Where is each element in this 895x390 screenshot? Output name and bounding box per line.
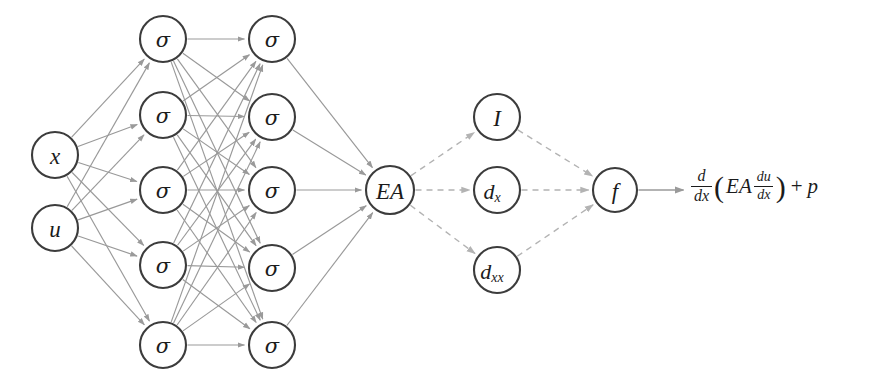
edge-der-i-to-res-f (518, 130, 593, 176)
edge-in-u-to-h1-5 (72, 246, 145, 325)
outer-frac-numerator: d (695, 168, 709, 186)
node-h1-1: σ (140, 16, 186, 62)
nodes-group: xuσσσσσσσσσσEAIdxdxxf (32, 16, 637, 368)
node-label-h2-2: σ (265, 106, 280, 130)
open-paren: ( (713, 175, 725, 199)
edge-h2-2-to-out-ea (293, 130, 366, 175)
node-label-h1-3: σ (156, 179, 171, 203)
edge-in-x-to-h1-5 (67, 176, 149, 321)
node-in-x: x (32, 132, 78, 178)
node-h1-5: σ (140, 322, 186, 368)
neural-network-diagram: xuσσσσσσσσσσEAIdxdxxf d dx ( EA du dx ) … (0, 0, 895, 390)
inner-derivative-fraction: du dx (754, 170, 774, 202)
edge-in-u-to-h1-3 (78, 199, 137, 220)
node-res-f: f (593, 168, 637, 212)
node-label-h2-4: σ (265, 257, 280, 281)
node-h1-2: σ (140, 92, 186, 138)
node-der-dx: dx (474, 167, 520, 213)
node-label-out-ea: EA (375, 179, 405, 204)
node-h2-5: σ (249, 322, 295, 368)
coefficient-EA: EA (725, 174, 753, 199)
edge-in-u-to-h1-1 (67, 63, 149, 207)
governing-equation-formula: d dx ( EA du dx ) + p (690, 155, 819, 217)
node-in-u: u (32, 205, 78, 251)
edge-h2-4-to-out-ea (292, 206, 366, 255)
edge-h2-1-to-out-ea (287, 58, 372, 167)
node-label-h1-4: σ (156, 254, 171, 278)
node-der-dxx: dxx (474, 247, 520, 293)
node-label-h2-3: σ (265, 179, 280, 203)
node-der-i: I (474, 94, 520, 140)
outer-derivative-fraction: d dx (691, 168, 712, 204)
node-label-h1-5: σ (156, 334, 171, 358)
edge-h1-5-to-h2-4 (183, 284, 250, 331)
close-paren: ) (775, 175, 787, 199)
node-h2-1: σ (249, 16, 295, 62)
edge-h1-4-to-h2-5 (183, 280, 250, 329)
edge-in-u-to-h1-2 (72, 135, 144, 210)
node-h2-3: σ (249, 167, 295, 213)
node-label-h2-1: σ (265, 28, 280, 52)
node-h2-2: σ (249, 94, 295, 140)
node-h1-4: σ (140, 242, 186, 288)
edge-in-u-to-h1-4 (78, 236, 137, 256)
node-h1-3: σ (140, 167, 186, 213)
node-label-h1-1: σ (156, 28, 171, 52)
edge-out-ea-to-der-dxx (410, 205, 475, 253)
edge-h1-2-to-h2-3 (183, 129, 249, 175)
plus-operator: + (787, 174, 807, 199)
node-label-h2-5: σ (265, 334, 280, 358)
node-h2-4: σ (249, 245, 295, 291)
node-out-ea: EA (366, 166, 414, 214)
inner-frac-numerator: du (754, 170, 774, 186)
node-label-der-i: I (492, 106, 502, 131)
edge-h1-4-to-h2-4 (187, 266, 244, 268)
source-term-p: p (807, 174, 820, 199)
node-label-in-u: u (49, 217, 61, 242)
inner-frac-denominator: dx (754, 186, 773, 203)
outer-frac-denominator: dx (691, 186, 712, 205)
edge-der-dxx-to-res-f (517, 205, 593, 256)
node-label-h1-2: σ (156, 104, 171, 128)
edge-out-ea-to-der-i (411, 133, 474, 176)
node-label-in-x: x (49, 144, 61, 169)
